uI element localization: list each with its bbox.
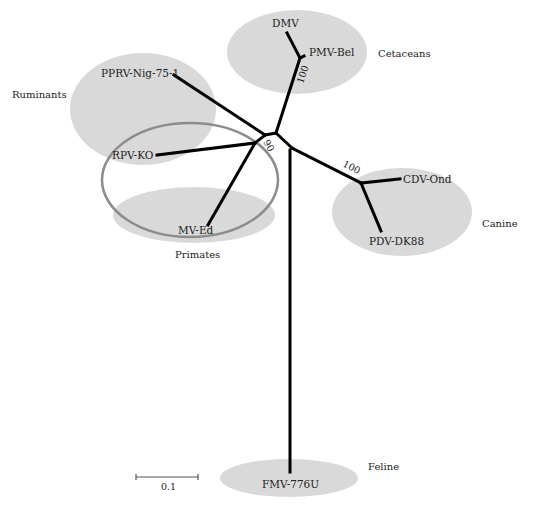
bootstrap-center: 90 <box>261 138 277 154</box>
taxon-dmv: DMV <box>272 17 299 29</box>
taxon-pprv: PPRV-Nig-75-1 <box>101 67 179 79</box>
group-cetaceans: Cetaceans <box>378 48 431 59</box>
group-feline: Feline <box>368 461 399 472</box>
taxon-fmv: FMV-776U <box>262 478 319 490</box>
scale-bar <box>136 474 198 480</box>
scale-bar-label: 0.1 <box>161 481 176 492</box>
taxon-mv: MV-Ed <box>178 224 214 236</box>
taxon-rpv: RPV-KO <box>112 149 154 161</box>
group-canine: Canine <box>482 218 518 229</box>
branch-to-canine-feline <box>276 133 292 148</box>
phylogenetic-tree: DMV PMV-Bel PPRV-Nig-75-1 RPV-KO MV-Ed C… <box>0 0 533 507</box>
taxon-pmv: PMV-Bel <box>309 46 355 58</box>
group-ruminants: Ruminants <box>12 89 67 100</box>
taxon-cdv: CDV-Ond <box>403 173 452 185</box>
group-primates: Primates <box>175 249 220 260</box>
taxon-pdv: PDV-DK88 <box>369 235 424 247</box>
